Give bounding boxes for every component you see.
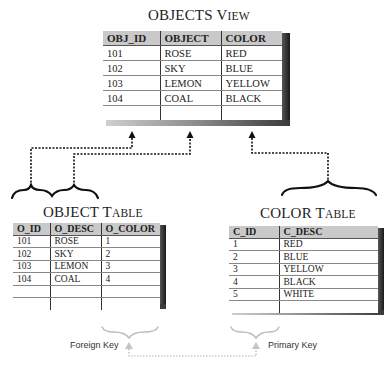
brace-icon xyxy=(282,181,376,195)
arrow-up-icon xyxy=(252,342,260,349)
foreign-key-brace-icon xyxy=(102,327,158,338)
primary-key-brace-icon xyxy=(231,327,279,338)
key-arrows xyxy=(125,342,260,349)
arrow-up-icon xyxy=(249,131,256,138)
connector-overlay xyxy=(0,0,391,365)
dotted-connectors xyxy=(31,137,328,186)
brace-icon xyxy=(12,185,98,198)
arrowheads xyxy=(129,131,256,138)
arrow-up-icon xyxy=(187,131,194,138)
braces xyxy=(12,181,376,198)
key-braces xyxy=(102,327,279,338)
foreign-key-label: Foreign Key xyxy=(70,340,119,350)
primary-key-label: Primary Key xyxy=(268,340,317,350)
connector-object xyxy=(74,137,190,186)
arrow-up-icon xyxy=(129,131,136,138)
key-relation-line xyxy=(129,349,256,356)
connector-color xyxy=(252,137,328,183)
arrow-up-icon xyxy=(125,342,133,349)
connector-obj-id xyxy=(31,137,132,186)
